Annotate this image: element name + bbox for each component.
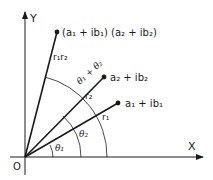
label-r2: r₂ — [85, 91, 93, 101]
point-z2-dot — [102, 75, 107, 80]
y-axis-label: Y — [29, 12, 37, 25]
x-axis-label: X — [188, 140, 196, 153]
label-theta2: θ₂ — [79, 129, 88, 139]
label-r1r2: r₁r₂ — [53, 52, 68, 62]
label-r1: r₁ — [102, 112, 110, 122]
label-theta1: θ₁ — [55, 143, 64, 153]
point-product-label: (a₁ + ib₁) (a₂ + ib₂) — [62, 27, 157, 38]
point-product-dot — [55, 30, 60, 35]
complex-multiplication-diagram: X Y O a₁ + ib₁ a₂ + ib₂ (a₁ + ib₁) (a₂ +… — [0, 0, 213, 180]
vector-r2 — [25, 77, 104, 157]
point-z2-label: a₂ + ib₂ — [110, 72, 148, 83]
origin-label: O — [13, 161, 21, 172]
point-z1-dot — [116, 101, 121, 106]
label-theta-sum: θ₁ + θ₂ — [75, 58, 105, 87]
arc-theta1 — [50, 145, 53, 157]
vector-r1r2 — [25, 32, 57, 157]
point-z1-label: a₁ + ib₁ — [125, 98, 163, 109]
